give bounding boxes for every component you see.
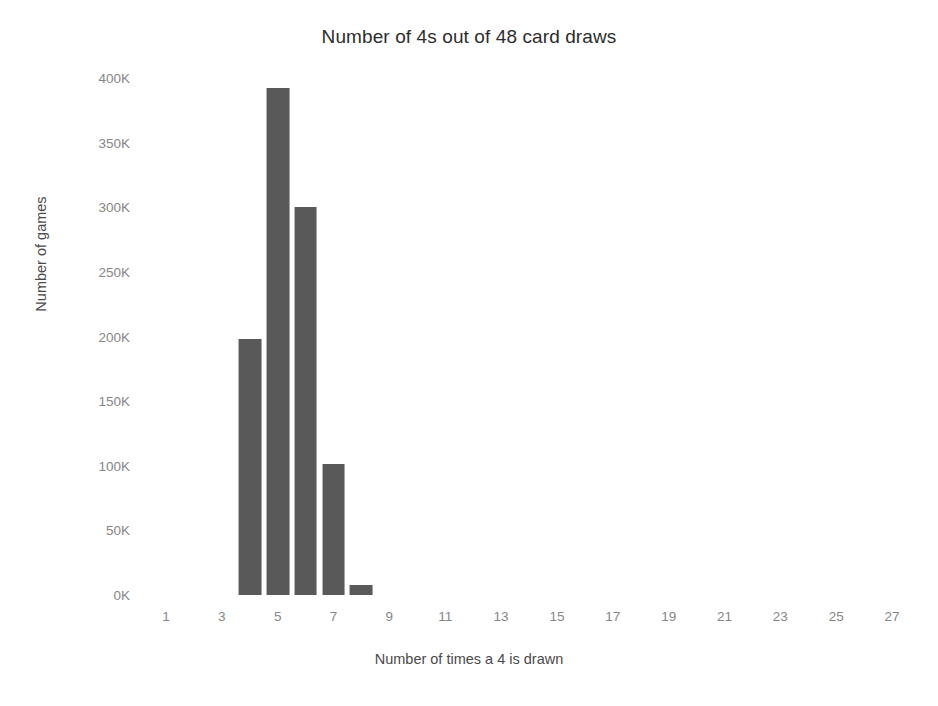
x-tick-label: 17 — [605, 609, 620, 624]
y-tick-label: 200K — [98, 329, 130, 344]
y-tick-label: 100K — [98, 458, 130, 473]
y-tick-label: 0K — [113, 588, 130, 603]
bar — [322, 464, 345, 595]
bar-chart: Number of 4s out of 48 card draws Number… — [0, 0, 938, 706]
x-tick-label: 9 — [386, 609, 394, 624]
y-tick-label: 250K — [98, 264, 130, 279]
bar — [266, 88, 289, 595]
x-tick-label: 27 — [885, 609, 900, 624]
bar — [294, 207, 317, 595]
x-tick-label: 21 — [717, 609, 732, 624]
x-tick-label: 19 — [661, 609, 676, 624]
y-tick-label: 350K — [98, 135, 130, 150]
y-axis-title: Number of games — [33, 159, 49, 349]
y-tick-label: 50K — [106, 523, 130, 538]
x-tick-label: 7 — [330, 609, 338, 624]
chart-title: Number of 4s out of 48 card draws — [0, 26, 938, 48]
x-tick-label: 11 — [438, 609, 452, 624]
x-tick-label: 3 — [218, 609, 226, 624]
y-tick-label: 150K — [98, 394, 130, 409]
y-tick-label: 300K — [98, 200, 130, 215]
x-tick-label: 25 — [829, 609, 844, 624]
y-tick-label: 400K — [98, 71, 130, 86]
x-tick-label: 15 — [549, 609, 564, 624]
plot-area: 400K350K300K250K200K150K100K50K0K 135791… — [138, 78, 920, 595]
x-tick-label: 23 — [773, 609, 788, 624]
bar — [238, 339, 261, 595]
bar — [350, 585, 373, 595]
x-tick-label: 5 — [274, 609, 282, 624]
x-tick-label: 13 — [494, 609, 509, 624]
x-tick-label: 1 — [162, 609, 170, 624]
x-axis-title: Number of times a 4 is drawn — [0, 651, 938, 667]
